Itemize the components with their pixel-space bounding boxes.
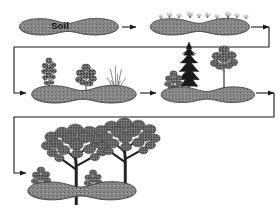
soil-label: Soil: [51, 20, 69, 31]
succession-diagram: Soil: [0, 0, 280, 212]
